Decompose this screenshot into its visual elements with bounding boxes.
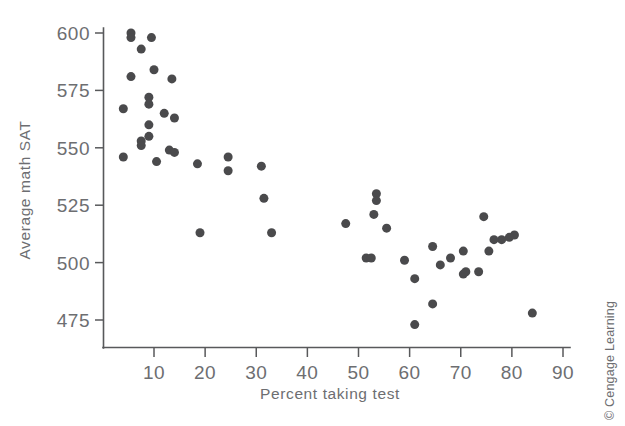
y-tick-label: 475 (57, 310, 90, 331)
data-point (479, 212, 488, 221)
data-point (196, 228, 205, 237)
x-tick-label: 70 (450, 362, 472, 383)
data-point (341, 219, 350, 228)
copyright-credit: © Cengage Learning (603, 260, 623, 420)
data-point (119, 104, 128, 113)
data-point (167, 74, 176, 83)
data-point (367, 254, 376, 263)
data-point (474, 267, 483, 276)
data-point (484, 247, 493, 256)
data-point (528, 309, 537, 318)
data-points-layer (119, 29, 537, 330)
data-point (126, 33, 135, 42)
data-point (144, 120, 153, 129)
y-tick-label: 600 (57, 23, 90, 44)
data-point (144, 100, 153, 109)
y-tick-label: 575 (57, 80, 90, 101)
y-tick-label: 525 (57, 195, 90, 216)
data-point (259, 194, 268, 203)
data-point (137, 45, 146, 54)
copyright-text: © Cengage Learning (603, 301, 617, 420)
data-point (505, 233, 514, 242)
data-point (152, 157, 161, 166)
data-point (193, 159, 202, 168)
x-tick-label: 60 (399, 362, 421, 383)
y-axis-ticks: 475500525550575600 (57, 23, 104, 331)
data-point (137, 141, 146, 150)
x-axis-ticks: 102030405060708090 (143, 347, 574, 383)
data-point (382, 224, 391, 233)
data-point (459, 270, 468, 279)
data-point (410, 320, 419, 329)
x-tick-label: 40 (296, 362, 318, 383)
y-axis-title: Average math SAT (16, 120, 33, 259)
x-tick-label: 50 (347, 362, 369, 383)
data-point (489, 235, 498, 244)
scatter-plot-figure: 475500525550575600 102030405060708090 Pe… (0, 0, 625, 426)
data-point (170, 113, 179, 122)
data-point (267, 228, 276, 237)
data-point (459, 247, 468, 256)
data-point (400, 256, 409, 265)
data-point (160, 109, 169, 118)
x-tick-label: 90 (552, 362, 574, 383)
data-point (126, 72, 135, 81)
data-point (224, 166, 233, 175)
data-point (436, 260, 445, 269)
plot-canvas: 475500525550575600 102030405060708090 Pe… (0, 0, 625, 426)
data-point (428, 299, 437, 308)
data-point (257, 162, 266, 171)
x-tick-label: 80 (501, 362, 523, 383)
x-axis-title: Percent taking test (260, 385, 400, 402)
data-point (224, 152, 233, 161)
data-point (497, 235, 506, 244)
data-point (446, 254, 455, 263)
data-point (119, 152, 128, 161)
x-tick-label: 30 (245, 362, 267, 383)
data-point (144, 132, 153, 141)
data-point (410, 274, 419, 283)
data-point (170, 148, 179, 157)
x-tick-label: 20 (194, 362, 216, 383)
data-point (428, 242, 437, 251)
x-tick-label: 10 (143, 362, 165, 383)
data-point (150, 65, 159, 74)
data-point (147, 33, 156, 42)
data-point (372, 196, 381, 205)
y-tick-label: 500 (57, 253, 90, 274)
y-tick-label: 550 (57, 138, 90, 159)
data-point (369, 210, 378, 219)
